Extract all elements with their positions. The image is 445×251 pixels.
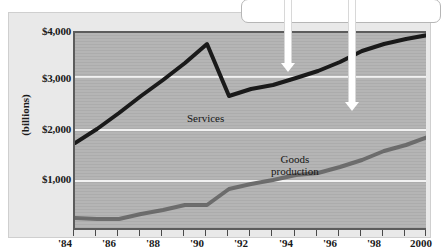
y-tick-label-1000: $1,000	[13, 173, 71, 185]
y-tick-label-4000: $4,000	[13, 25, 71, 37]
x-tick-1996	[338, 230, 339, 236]
y-tick-label-3000: $3,000	[13, 72, 71, 84]
x-tick-1984	[73, 230, 74, 236]
x-tick-label-1984: '84	[58, 237, 72, 249]
x-tick-1999	[404, 230, 405, 236]
series-lines	[75, 33, 426, 230]
x-tick-1992	[249, 230, 250, 236]
x-tick-1990	[205, 230, 206, 236]
x-axis-tick-labels: '84 '86 '88 '90 '92 '94 '96 '98 2000	[9, 237, 445, 251]
x-tick-label-1998: '98	[367, 237, 381, 249]
x-tick-label-1988: '88	[146, 237, 160, 249]
x-tick-1998	[382, 230, 383, 236]
series-label-goods: Goods production	[271, 153, 319, 177]
x-tick-1989	[183, 230, 184, 236]
x-tick-label-2000: 2000	[410, 237, 432, 249]
x-tick-1985	[95, 230, 96, 236]
goods-label-line1: Goods	[271, 153, 319, 165]
series-label-services: Services	[187, 112, 224, 124]
y-axis-tick-labels: $4,000 $3,000 $2,000 $1,000	[9, 31, 71, 230]
chart-panel: (billions) $4,000 $3,000 $2,000 $1,000 S…	[8, 12, 431, 238]
x-tick-1987	[139, 230, 140, 236]
top-callout-card	[241, 0, 441, 23]
x-tick-1994	[294, 230, 295, 236]
series-line-services	[75, 35, 426, 143]
goods-label-line2: production	[271, 165, 319, 177]
x-tick-label-1994: '94	[279, 237, 293, 249]
series-line-goods	[75, 137, 426, 219]
down-arrow-1994-icon	[281, 0, 295, 74]
x-tick-label-1996: '96	[323, 237, 337, 249]
down-arrow-1997-icon	[345, 0, 359, 113]
x-tick-1988	[161, 230, 162, 236]
x-tick-2000	[425, 230, 426, 236]
y-tick-label-2000: $2,000	[13, 123, 71, 135]
x-tick-1995	[316, 230, 317, 236]
x-tick-label-1986: '86	[102, 237, 116, 249]
x-tick-1991	[227, 230, 228, 236]
x-tick-1986	[117, 230, 118, 236]
x-tick-label-1992: '92	[234, 237, 248, 249]
plot-area: Services Goods production	[73, 31, 426, 230]
x-tick-1993	[271, 230, 272, 236]
x-tick-label-1990: '90	[190, 237, 204, 249]
x-tick-1997	[360, 230, 361, 236]
